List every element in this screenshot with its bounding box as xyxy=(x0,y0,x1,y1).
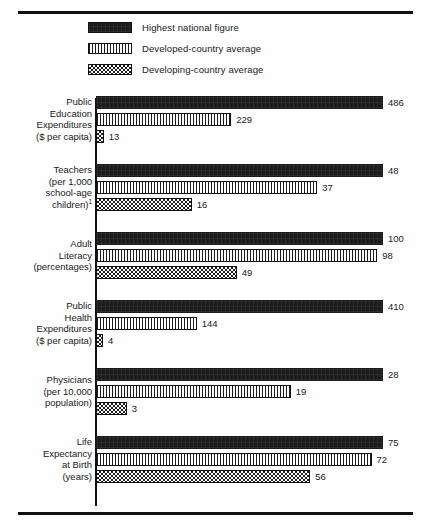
category-label-line: Health xyxy=(0,312,92,324)
category-label-line: Life xyxy=(0,436,92,448)
legend-item-label: Developed-country average xyxy=(142,43,261,54)
category-label-line: at Birth xyxy=(0,459,92,471)
bar xyxy=(96,470,310,483)
category-label-line: Education xyxy=(0,108,92,120)
category-label-line: (per 10,000 xyxy=(0,386,92,398)
category-label: PublicHealthExpenditures($ per capita) xyxy=(0,300,92,346)
bar-value-label: 75 xyxy=(388,436,399,449)
bar-value-label: 49 xyxy=(242,266,253,279)
bar xyxy=(96,385,291,398)
bar-value-label: 56 xyxy=(315,470,326,483)
category-label-line: Expectancy xyxy=(0,448,92,460)
bar-value-label: 19 xyxy=(296,385,307,398)
bar xyxy=(96,198,192,211)
bar-value-label: 4 xyxy=(108,334,113,347)
bar xyxy=(96,334,103,347)
bar xyxy=(96,232,383,245)
bar xyxy=(96,130,104,143)
category-label-line: (percentages) xyxy=(0,261,92,273)
bar-value-label: 37 xyxy=(322,181,333,194)
bar xyxy=(96,402,127,415)
bar-value-label: 72 xyxy=(377,453,388,466)
bar-value-label: 410 xyxy=(388,300,404,313)
bar-group: LifeExpectancyat Birth(years)757256 xyxy=(0,436,423,483)
plot-area: PublicEducationExpenditures($ per capita… xyxy=(0,88,423,512)
bar xyxy=(96,266,237,279)
category-label: AdultLiteracy(percentages) xyxy=(0,238,92,273)
category-label: Teachers(per 1,000school-agechildren)1 xyxy=(0,164,92,210)
bar-value-label: 48 xyxy=(388,164,399,177)
legend-swatch-developing xyxy=(88,64,132,75)
legend-swatch-highest xyxy=(88,22,132,33)
category-label: Physicians(per 10,000population) xyxy=(0,374,92,409)
category-label-line: Public xyxy=(0,96,92,108)
legend-item: Developing-country average xyxy=(88,60,263,78)
category-label: LifeExpectancyat Birth(years) xyxy=(0,436,92,482)
bar-value-label: 100 xyxy=(388,232,404,245)
bar-value-label: 13 xyxy=(109,130,120,143)
category-label-line: children)1 xyxy=(0,199,92,211)
bar xyxy=(96,368,383,381)
bar-group: AdultLiteracy(percentages)1009849 xyxy=(0,232,423,279)
category-label-line: ($ per capita) xyxy=(0,131,92,143)
bar-value-label: 98 xyxy=(382,249,393,262)
category-label-line: population) xyxy=(0,397,92,409)
bar-group: PublicEducationExpenditures($ per capita… xyxy=(0,96,423,143)
category-label-line: Literacy xyxy=(0,250,92,262)
bottom-rule xyxy=(18,512,413,515)
bar-group: PublicHealthExpenditures($ per capita)41… xyxy=(0,300,423,347)
bar xyxy=(96,164,383,177)
category-label-line: school-age xyxy=(0,187,92,199)
bar-group: Physicians(per 10,000population)28193 xyxy=(0,368,423,415)
bar xyxy=(96,317,197,330)
legend-item: Highest national figure xyxy=(88,18,263,36)
chart-legend: Highest national figureDeveloped-country… xyxy=(88,18,263,81)
bar-value-label: 486 xyxy=(388,96,404,109)
category-label-line: Teachers xyxy=(0,164,92,176)
bar xyxy=(96,300,383,313)
category-label-line: Adult xyxy=(0,238,92,250)
category-label-line: Expenditures xyxy=(0,323,92,335)
bar xyxy=(96,181,317,194)
bar-value-label: 16 xyxy=(197,198,208,211)
legend-item: Developed-country average xyxy=(88,39,263,57)
legend-item-label: Developing-country average xyxy=(142,64,263,75)
bar-value-label: 3 xyxy=(132,402,137,415)
bar-value-label: 229 xyxy=(236,113,252,126)
category-label: PublicEducationExpenditures($ per capita… xyxy=(0,96,92,142)
bar-group: Teachers(per 1,000school-agechildren)148… xyxy=(0,164,423,211)
bar xyxy=(96,113,231,126)
bar xyxy=(96,96,383,109)
category-label-line: (years) xyxy=(0,471,92,483)
category-label-line: (per 1,000 xyxy=(0,176,92,188)
chart-sheet: Highest national figureDeveloped-country… xyxy=(0,0,423,527)
top-rule xyxy=(18,11,413,14)
category-label-line: Expenditures xyxy=(0,119,92,131)
legend-swatch-developed xyxy=(88,43,132,54)
legend-item-label: Highest national figure xyxy=(142,22,239,33)
category-label-line: Physicians xyxy=(0,374,92,386)
bar-value-label: 144 xyxy=(202,317,218,330)
bar-value-label: 28 xyxy=(388,368,399,381)
bar xyxy=(96,436,383,449)
footnote-marker: 1 xyxy=(88,198,92,205)
bar xyxy=(96,249,377,262)
bar xyxy=(96,453,372,466)
category-label-line: ($ per capita) xyxy=(0,335,92,347)
category-label-line: Public xyxy=(0,300,92,312)
